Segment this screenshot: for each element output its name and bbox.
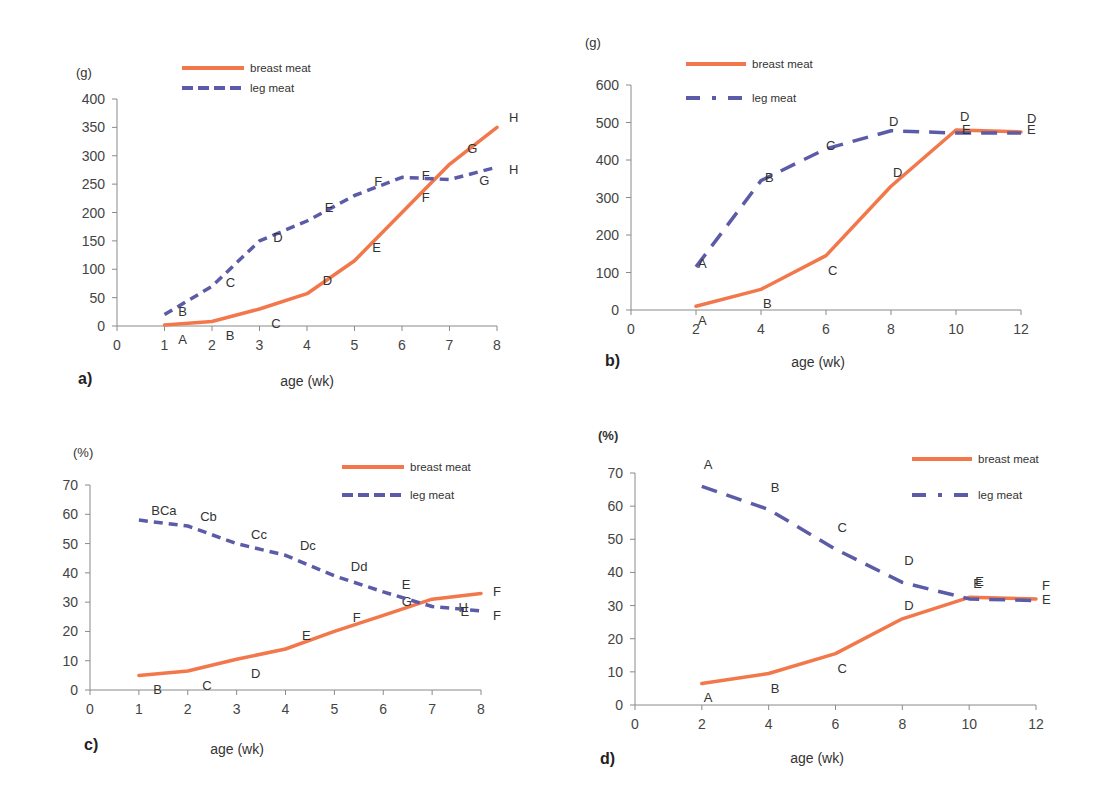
y-tick-label: 250 (82, 176, 106, 192)
x-tick-label: 5 (330, 701, 338, 717)
significance-letter: D (889, 114, 898, 129)
data-point-leg-meat (211, 285, 214, 288)
y-tick-label: 40 (62, 565, 78, 581)
legend-label: leg meat (410, 489, 455, 501)
significance-letter: F (374, 174, 382, 189)
significance-letter: D (323, 273, 332, 288)
significance-letter: A (704, 457, 713, 472)
x-tick-label: 7 (446, 337, 454, 353)
data-point-leg-meat (700, 485, 703, 488)
y-tick-label: 70 (607, 465, 623, 481)
y-tick-label: 300 (596, 190, 620, 206)
y-tick-label: 350 (82, 119, 106, 135)
x-tick-label: 4 (757, 321, 765, 337)
chart-panel-c: 010203040506070012345678(%)c)age (wk)BCD… (62, 445, 501, 757)
x-tick-label: 12 (1013, 321, 1029, 337)
data-point-breast-meat (235, 658, 238, 661)
x-axis-title: age (wk) (280, 373, 334, 389)
data-point-breast-meat (834, 652, 837, 655)
x-tick-label: 6 (379, 701, 387, 717)
significance-letter: E (461, 604, 470, 619)
x-axis-title: age (wk) (791, 354, 845, 370)
data-point-leg-meat (767, 508, 770, 511)
significance-letter: G (467, 141, 477, 156)
significance-letter: B (771, 681, 780, 696)
panel-label: b) (605, 352, 620, 369)
data-point-breast-meat (448, 163, 451, 166)
x-tick-label: 12 (1028, 716, 1044, 732)
y-tick-label: 50 (62, 536, 78, 552)
significance-letter: Dd (351, 559, 368, 574)
significance-letter: C (202, 678, 211, 693)
significance-letter: D (904, 598, 913, 613)
x-tick-label: 2 (208, 337, 216, 353)
x-tick-label: 5 (351, 337, 359, 353)
x-axis-title: age (wk) (790, 750, 844, 766)
y-tick-label: 30 (607, 598, 623, 614)
x-tick-label: 0 (86, 701, 94, 717)
y-tick-label: 150 (82, 233, 106, 249)
y-tick-label: 70 (62, 477, 78, 493)
x-tick-label: 2 (698, 716, 706, 732)
x-tick-label: 10 (948, 321, 964, 337)
significance-letter: Cc (251, 527, 267, 542)
significance-letter: B (765, 170, 774, 185)
data-point-leg-meat (431, 605, 434, 608)
y-tick-label: 50 (607, 531, 623, 547)
chart-panel-d: 010203040506070024681012(%)d)age (wk)ABC… (598, 428, 1051, 767)
y-unit-label: (%) (73, 445, 93, 460)
x-tick-label: 8 (887, 321, 895, 337)
y-unit-label: (g) (76, 65, 92, 80)
series-line-breast-meat (165, 127, 498, 325)
data-point-breast-meat (211, 320, 214, 323)
significance-letter: B (226, 328, 235, 343)
legend-label: leg meat (978, 489, 1023, 501)
data-point-breast-meat (901, 617, 904, 620)
data-point-breast-meat (480, 592, 483, 595)
y-tick-label: 60 (62, 506, 78, 522)
y-tick-label: 100 (596, 265, 620, 281)
significance-letter: E (1027, 122, 1036, 137)
significance-letter: D (251, 666, 260, 681)
y-unit-label: (%) (598, 428, 618, 443)
figure: 050100150200250300350400012345678(g)a)ag… (0, 0, 1109, 809)
significance-letter: A (178, 332, 187, 347)
data-point-leg-meat (480, 609, 483, 612)
data-point-breast-meat (284, 648, 287, 651)
significance-letter: C (838, 520, 847, 535)
significance-letter: E (402, 577, 411, 592)
x-tick-label: 1 (161, 337, 169, 353)
x-tick-label: 6 (832, 716, 840, 732)
data-point-breast-meat (306, 292, 309, 295)
data-point-leg-meat (258, 239, 261, 242)
significance-letter: C (838, 661, 847, 676)
y-tick-label: 0 (97, 318, 105, 334)
data-point-breast-meat (137, 674, 140, 677)
x-tick-label: 8 (493, 337, 501, 353)
significance-letter: A (704, 690, 713, 705)
significance-letter: E (302, 628, 311, 643)
significance-letter: A (698, 313, 707, 328)
legend-label: breast meat (410, 461, 472, 473)
y-tick-label: 300 (82, 148, 106, 164)
legend-label: leg meat (752, 92, 797, 104)
y-tick-label: 200 (82, 205, 106, 221)
data-point-breast-meat (431, 598, 434, 601)
legend-label: breast meat (250, 62, 312, 74)
significance-letter: F (353, 610, 361, 625)
significance-letter: F (422, 168, 430, 183)
x-tick-label: 0 (113, 337, 121, 353)
x-tick-label: 2 (184, 701, 192, 717)
legend: breast meatleg meat (686, 58, 814, 104)
y-tick-label: 400 (596, 152, 620, 168)
data-point-leg-meat (401, 176, 404, 179)
data-point-leg-meat (235, 542, 238, 545)
x-tick-label: 10 (961, 716, 977, 732)
panel-label: c) (84, 736, 98, 753)
data-point-breast-meat (695, 305, 698, 308)
data-point-leg-meat (1020, 132, 1023, 135)
significance-letter: E (1042, 592, 1051, 607)
significance-letter: Cb (200, 509, 217, 524)
series-line-breast-meat (696, 130, 1021, 306)
data-point-breast-meat (382, 614, 385, 617)
